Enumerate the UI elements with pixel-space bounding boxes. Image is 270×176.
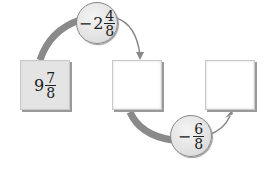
step1-denominator: 8 (105, 24, 114, 38)
start-denominator: 8 (46, 86, 55, 100)
step2-denominator: 8 (194, 137, 203, 151)
answer-box-2[interactable] (205, 60, 255, 110)
start-fraction: 7 8 (45, 71, 56, 100)
step1-whole: 2 (93, 14, 103, 33)
start-box: 9 7 8 (20, 60, 70, 110)
step1-fraction: 4 8 (104, 9, 115, 38)
step1-sign: − (79, 14, 92, 33)
answer-box-1[interactable] (112, 60, 162, 110)
step2-sign: − (178, 127, 191, 146)
step2-fraction: 6 8 (193, 122, 204, 151)
operator-circle-2: − 6 8 (170, 115, 212, 157)
start-numerator: 7 (45, 71, 56, 86)
start-whole: 9 (34, 76, 44, 95)
step2-numerator: 6 (193, 122, 204, 137)
step1-numerator: 4 (104, 9, 115, 24)
operator-circle-1: − 2 4 8 (76, 2, 118, 44)
